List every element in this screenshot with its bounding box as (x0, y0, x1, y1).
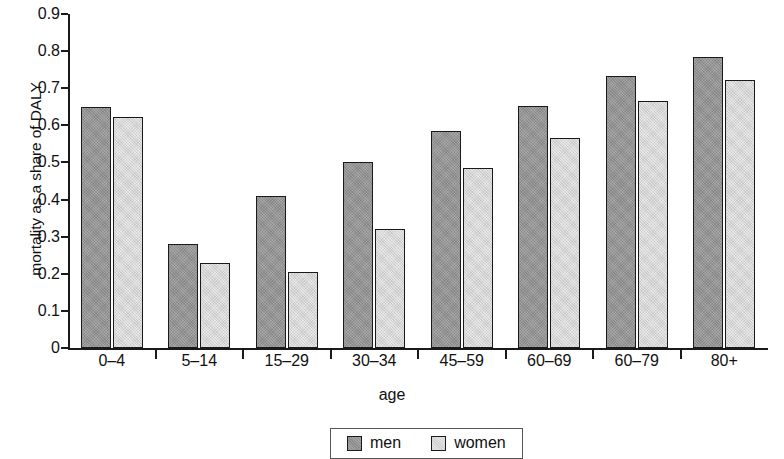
y-axis-tick-label: 0.9 (16, 6, 60, 22)
y-axis-tick-label: 0.3 (16, 229, 60, 245)
y-axis-tick-mark (61, 87, 68, 89)
x-axis-group-label: 80+ (674, 352, 774, 370)
bar-men-45_59 (431, 131, 461, 348)
legend-label-men: men (370, 434, 401, 452)
bar-women-60_79 (638, 101, 668, 348)
bar-men-60_79 (606, 76, 636, 348)
y-axis-tick-label: 0.5 (16, 154, 60, 170)
bar-women-5_14 (200, 263, 230, 348)
legend-item-women: women (431, 434, 506, 452)
bar-men-15_29 (256, 196, 286, 348)
y-axis-tick-mark (61, 124, 68, 126)
bar-women-0_4 (113, 117, 143, 348)
y-axis-tick-mark (61, 50, 68, 52)
bar-women-60_69 (550, 138, 580, 348)
y-axis-tick-mark (61, 13, 68, 15)
y-axis-tick-label: 0.2 (16, 266, 60, 282)
bar-women-80+ (725, 80, 755, 348)
bar-men-30_34 (343, 162, 373, 348)
y-axis-tick-mark (61, 273, 68, 275)
y-axis-tick-mark (61, 161, 68, 163)
bar-men-80+ (693, 57, 723, 348)
bar-women-30_34 (375, 229, 405, 348)
y-axis-tick-mark (61, 347, 68, 349)
x-axis-group-label: 0–4 (62, 352, 162, 370)
x-axis-group-label: 5–14 (149, 352, 249, 370)
x-axis-group-label: 30–34 (324, 352, 424, 370)
x-axis-group-label: 45–59 (412, 352, 512, 370)
bar-men-60_69 (518, 106, 548, 348)
y-axis-line (68, 14, 70, 348)
bar-men-0_4 (81, 107, 111, 348)
y-axis-tick-mark (61, 236, 68, 238)
y-axis-tick-label: 0 (16, 340, 60, 356)
legend-swatch-men-icon (347, 436, 362, 451)
legend-item-men: men (347, 434, 401, 452)
y-axis-tick-label: 0.4 (16, 192, 60, 208)
bar-women-15_29 (288, 272, 318, 348)
y-axis-tick-label: 0.6 (16, 117, 60, 133)
bar-women-45_59 (463, 168, 493, 348)
chart-legend: men women (330, 428, 523, 459)
y-axis-tick-mark (61, 310, 68, 312)
y-axis-tick-mark (61, 199, 68, 201)
plot-area (68, 14, 768, 348)
bar-men-5_14 (168, 244, 198, 348)
y-axis-tick-label: 0.7 (16, 80, 60, 96)
y-axis-tick-label: 0.8 (16, 43, 60, 59)
x-axis-group-label: 60–79 (587, 352, 687, 370)
x-axis-group-label: 60–69 (499, 352, 599, 370)
x-axis-group-label: 15–29 (237, 352, 337, 370)
y-axis-tick-label: 0.1 (16, 303, 60, 319)
legend-swatch-women-icon (431, 436, 446, 451)
legend-label-women: women (454, 434, 506, 452)
x-axis-title: age (0, 386, 784, 404)
